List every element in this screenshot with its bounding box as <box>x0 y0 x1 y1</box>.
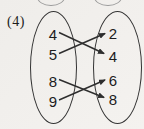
scanned-diagram-canvas: (4) 4 5 8 9 2 4 6 8 <box>0 0 144 129</box>
codomain-oval <box>93 11 142 124</box>
domain-item-4: 4 <box>49 27 57 42</box>
problem-number-label: (4) <box>7 15 25 29</box>
cropped-oval-remnant-right <box>94 0 122 6</box>
cropped-oval-remnant-left <box>37 0 65 6</box>
codomain-item-8: 8 <box>109 92 117 107</box>
codomain-item-4: 4 <box>109 49 117 64</box>
domain-item-5: 5 <box>49 47 57 62</box>
codomain-item-6: 6 <box>109 73 117 88</box>
domain-item-9: 9 <box>49 94 57 109</box>
codomain-item-2: 2 <box>109 26 117 41</box>
domain-item-8: 8 <box>49 74 57 89</box>
